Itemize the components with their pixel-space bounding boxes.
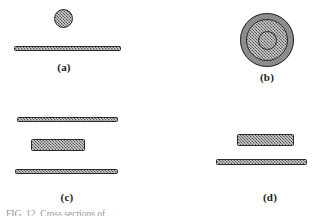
panel-d-label: (d) [250, 191, 290, 203]
panel-b-core-disc [258, 31, 277, 50]
panel-b-label: (b) [247, 71, 287, 83]
panel-d-upper-block [237, 134, 294, 146]
panel-c-lower-slab [15, 169, 118, 174]
panel-d-lower-slab [216, 159, 307, 165]
figure-panel-grid: (a) (b) (c) (d) FIG. 12. Cross sections … [0, 0, 320, 216]
panel-c-label: (c) [47, 191, 87, 203]
panel-a-slab [14, 46, 121, 51]
panel-c-upper-slab [17, 117, 118, 122]
panel-c-middle-block [31, 139, 85, 151]
panel-a-disc [54, 9, 73, 28]
panel-a-label: (a) [44, 61, 84, 73]
figure-caption: FIG. 12. Cross sections of ... [6, 209, 115, 216]
